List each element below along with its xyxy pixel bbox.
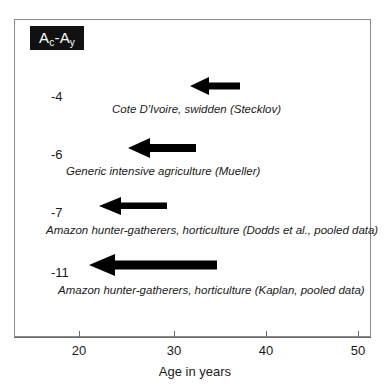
- data-caption-0: Cote D'Ivoire, swidden (Stecklov): [112, 103, 281, 116]
- x-axis-tick-1: [174, 331, 175, 338]
- series-label-a1: A: [39, 29, 49, 46]
- x-axis-tick-0: [79, 331, 80, 338]
- data-arrow-0: [190, 76, 240, 96]
- y-axis-label-3: -11: [51, 266, 69, 279]
- x-axis-tick-label-3: 50: [351, 344, 365, 358]
- x-axis-line: [14, 337, 371, 338]
- data-arrow-2: [99, 196, 167, 216]
- series-label-sub2: y: [70, 37, 75, 48]
- y-axis-label-0: -4: [51, 90, 63, 103]
- data-caption-1: Generic intensive agriculture (Mueller): [66, 165, 260, 178]
- data-caption-2: Amazon hunter-gatherers, horticulture (D…: [46, 224, 378, 237]
- x-axis-tick-2: [266, 331, 267, 338]
- x-axis-tick-label-0: 20: [72, 344, 86, 358]
- y-axis-label-1: -6: [51, 148, 63, 161]
- series-label-sub1: c: [49, 37, 54, 48]
- x-axis-tick-label-1: 30: [167, 344, 181, 358]
- x-axis-title: Age in years: [0, 364, 390, 379]
- series-label-a2: A: [60, 29, 70, 46]
- data-arrow-3: [89, 253, 217, 277]
- figure-container: Ac-Ay -4 Cote D'Ivoire, swidden (Stecklo…: [0, 0, 390, 386]
- y-axis-label-2: -7: [51, 206, 63, 219]
- x-axis-tick-3: [358, 331, 359, 338]
- x-axis-tick-label-2: 40: [259, 344, 273, 358]
- data-arrow-1: [128, 137, 196, 159]
- series-label-badge: Ac-Ay: [30, 26, 84, 50]
- data-caption-3: Amazon hunter-gatherers, horticulture (K…: [58, 284, 365, 297]
